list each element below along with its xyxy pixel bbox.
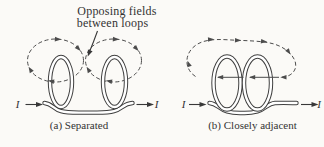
current-label-b-out: I [317, 99, 321, 111]
annotation-opposing-fields-line2: between loops [77, 17, 149, 30]
coil-b [210, 57, 297, 114]
annotation-pointer-arrow [85, 31, 97, 57]
caption-panel-a: (a) Separated [50, 120, 108, 132]
caption-panel-b: (b) Closely adjacent [208, 120, 297, 132]
coil-a [45, 57, 133, 113]
current-label-a-out: I [155, 99, 159, 111]
field-line-a-right-dash [86, 39, 142, 82]
current-label-a-in: I [16, 99, 20, 111]
figure-canvas: Opposing fields between loops I I I I (a… [0, 0, 324, 147]
current-label-b-in: I [182, 99, 186, 111]
